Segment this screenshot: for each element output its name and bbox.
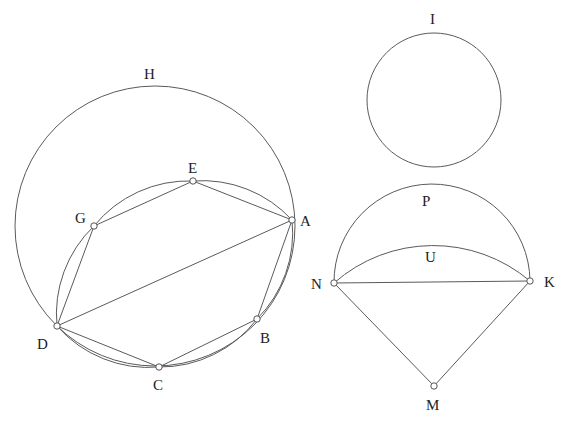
point-n — [331, 280, 337, 286]
label-n: N — [311, 276, 322, 292]
label-p: P — [422, 193, 430, 209]
point-e — [190, 178, 196, 184]
geometry-diagram: H E G A D C B I P U N K M — [0, 0, 566, 428]
segment-nm — [334, 283, 434, 386]
point-d — [54, 323, 60, 329]
point-k — [527, 278, 533, 284]
point-b — [254, 316, 260, 322]
diagonal-ad — [57, 220, 292, 326]
label-e: E — [188, 160, 197, 176]
left-figure: H E G A D C B — [15, 66, 311, 393]
circle-i — [367, 33, 501, 167]
point-g — [91, 223, 97, 229]
hexagon-aegdcb — [57, 181, 292, 367]
label-h: H — [144, 66, 155, 82]
chord-nk — [334, 281, 530, 283]
point-c — [156, 364, 162, 370]
segment-km — [434, 281, 530, 386]
label-u: U — [425, 249, 436, 265]
label-b: B — [260, 330, 270, 346]
label-c: C — [153, 377, 163, 393]
label-m: M — [426, 397, 439, 413]
right-figure: I P U N K M — [311, 11, 555, 413]
label-d: D — [37, 336, 48, 352]
arc-p — [334, 184, 530, 283]
label-k: K — [544, 274, 555, 290]
point-m — [431, 383, 437, 389]
label-i: I — [430, 11, 435, 27]
label-a: A — [300, 213, 311, 229]
label-g: G — [75, 210, 86, 226]
point-a — [289, 217, 295, 223]
